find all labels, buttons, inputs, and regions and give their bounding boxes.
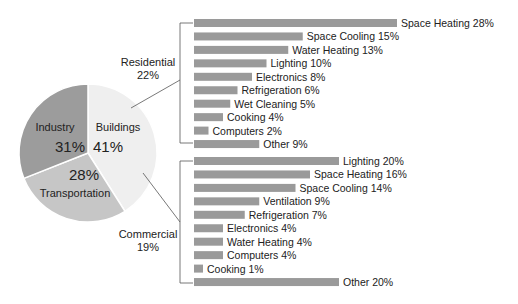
bar-label: Space Heating 28% [401,17,494,29]
bar-cooking [194,265,203,273]
pie-label-industry: Industry [35,121,75,133]
bar-water-heating [194,238,223,246]
chart-canvas: Industry 31% Buildings 41% 28% Transport… [0,0,518,304]
pie-label-transportation: Transportation [40,187,111,199]
bar-label: Lighting 10% [271,57,332,69]
commercial-percent: 19% [137,241,159,253]
bar-electronics [194,73,252,81]
bar-label: Electronics 8% [256,71,325,83]
residential-label: Residential [121,56,175,68]
bar-wet-cleaning [194,100,230,108]
bar-lighting [194,59,267,67]
bar-label: Space Heating 16% [314,168,407,180]
pie-value-transportation: 28% [69,166,99,183]
bar-space-heating [194,170,310,178]
bar-label: Water Heating 13% [292,44,383,56]
bar-space-cooling [194,184,296,192]
bar-label: Cooking 4% [227,111,284,123]
commercial-bar-chart: Lighting 20%Space Heating 16%Space Cooli… [194,155,407,288]
residential-percent: 22% [137,69,159,81]
bar-label: Refrigeration 6% [242,84,320,96]
bar-label: Computers 2% [213,125,282,137]
residential-bracket [180,23,193,143]
bar-computers [194,127,209,135]
bar-electronics [194,224,223,232]
bar-label: Wet Cleaning 5% [234,98,315,110]
bar-ventilation [194,197,259,205]
pie-value-industry: 31% [55,138,85,155]
bar-label: Ventilation 9% [263,195,330,207]
bar-space-cooling [194,32,303,40]
bar-computers [194,251,223,259]
bar-label: Space Cooling 15% [307,30,399,42]
commercial-label: Commercial [119,228,178,240]
bar-label: Electronics 4% [227,222,296,234]
bar-label: Other 20% [343,276,393,288]
bar-other [194,278,339,286]
residential-bar-chart: Space Heating 28%Space Cooling 15%Water … [194,17,494,150]
commercial-connector-line [143,173,180,222]
bar-label: Other 9% [263,138,307,150]
pie-value-buildings: 41% [93,138,123,155]
bar-lighting [194,157,339,165]
bar-label: Refrigeration 7% [249,209,327,221]
bar-refrigeration [194,86,238,94]
bar-label: Space Cooling 14% [300,182,392,194]
residential-connector-line [131,80,180,108]
bar-label: Lighting 20% [343,155,404,167]
bar-cooking [194,113,223,121]
bar-label: Computers 4% [227,249,296,261]
bar-water-heating [194,46,288,54]
bar-label: Water Heating 4% [227,236,312,248]
bar-space-heating [194,19,397,27]
bar-other [194,140,259,148]
pie-label-buildings: Buildings [96,121,141,133]
bar-label: Cooking 1% [207,263,264,275]
commercial-bracket [180,161,193,283]
bar-refrigeration [194,211,245,219]
